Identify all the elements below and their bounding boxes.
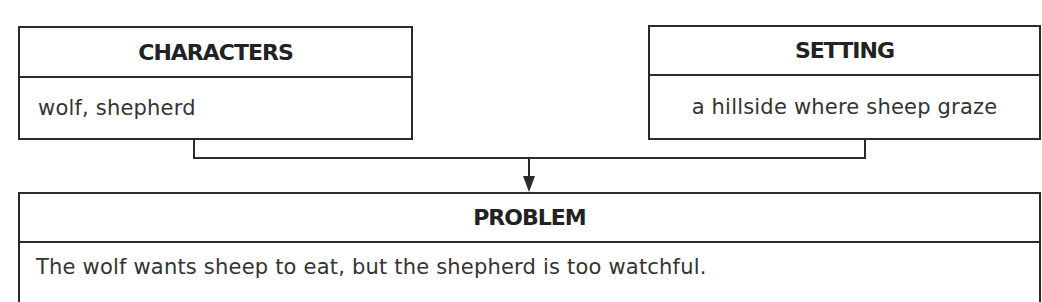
setting-box: SETTING a hillside where sheep graze xyxy=(648,25,1041,140)
setting-content: a hillside where sheep graze xyxy=(650,76,1039,138)
merge-connector xyxy=(194,140,865,158)
problem-box: PROBLEM The wolf wants sheep to eat, but… xyxy=(18,192,1041,302)
characters-title: CHARACTERS xyxy=(20,28,411,78)
setting-title: SETTING xyxy=(650,27,1039,76)
problem-content: The wolf wants sheep to eat, but the she… xyxy=(20,243,1039,291)
problem-title: PROBLEM xyxy=(20,194,1039,243)
characters-box: CHARACTERS wolf, shepherd xyxy=(18,26,413,140)
characters-content: wolf, shepherd xyxy=(20,78,411,138)
arrow-down-icon xyxy=(523,176,535,192)
